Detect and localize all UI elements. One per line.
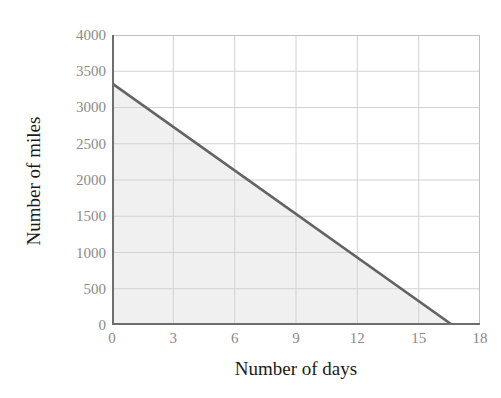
x-tick-label: 9	[292, 331, 300, 346]
chart-canvas	[112, 35, 480, 325]
y-tick-label: 500	[84, 282, 107, 297]
x-tick-label: 3	[170, 331, 178, 346]
y-tick-label: 2500	[76, 137, 106, 152]
y-tick-label: 1500	[76, 209, 106, 224]
plot-area	[112, 35, 480, 325]
y-axis-title: Number of miles	[23, 61, 45, 301]
y-tick-label: 2000	[76, 173, 106, 188]
y-tick-label: 3000	[76, 100, 106, 115]
x-axis-title: Number of days	[112, 358, 480, 380]
x-tick-label: 15	[411, 331, 426, 346]
x-tick-label: 12	[350, 331, 365, 346]
y-tick-label: 3500	[76, 64, 106, 79]
x-tick-label: 0	[108, 331, 116, 346]
x-tick-label: 18	[473, 331, 488, 346]
y-tick-label: 1000	[76, 246, 106, 261]
chart-screenshot: 4000 3500 3000 2500 2000 1500 1000 500 0	[0, 0, 501, 398]
y-tick-label: 4000	[76, 28, 106, 43]
x-tick-label: 6	[231, 331, 239, 346]
x-axis-tick-labels: 0 3 6 9 12 15 18	[0, 331, 501, 353]
